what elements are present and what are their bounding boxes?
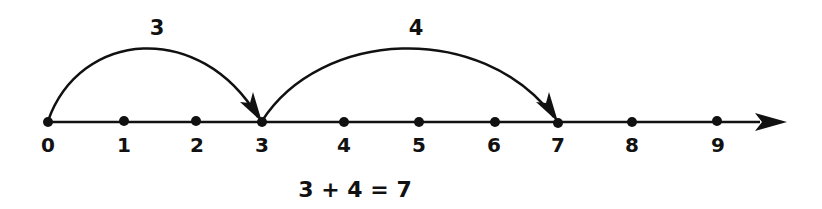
tick-label: 0 (41, 133, 55, 157)
jump-arc-0-to-3 (48, 48, 258, 121)
tick-label: 3 (255, 133, 269, 157)
tick-label: 1 (117, 133, 131, 157)
jump-arcs (48, 48, 558, 122)
tick-label: 5 (412, 133, 426, 157)
tick-label: 9 (711, 133, 725, 157)
tick-dot (553, 118, 563, 128)
jump-arrowhead-icon (536, 92, 558, 122)
tick-labels: 0 1 2 3 4 5 6 7 8 9 (41, 133, 725, 157)
tick-dot (43, 117, 53, 127)
tick-dot (627, 117, 637, 127)
equation: 3 + 4 = 7 (298, 177, 411, 202)
tick-dot (339, 117, 349, 127)
tick-dot (490, 117, 500, 127)
jump-arc-3-to-7 (262, 48, 554, 121)
number-line-diagram: 3 4 0 1 2 3 4 5 6 7 8 9 3 + 4 = 7 (0, 0, 822, 209)
tick-label: 8 (625, 133, 639, 157)
tick-label: 2 (190, 133, 204, 157)
tick-label: 4 (337, 133, 351, 157)
tick-dot (414, 117, 424, 127)
jump-label: 3 (150, 16, 165, 40)
tick-dot (712, 116, 722, 126)
tick-label: 7 (551, 133, 565, 157)
tick-dot (191, 116, 201, 126)
tick-dot (119, 116, 129, 126)
jump-label: 4 (409, 16, 424, 40)
tick-label: 6 (487, 133, 501, 157)
tick-dot (257, 117, 267, 127)
